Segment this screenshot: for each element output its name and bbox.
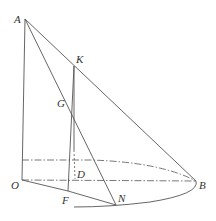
- label-D: D: [76, 168, 85, 180]
- segment-KD-hidden: [74, 150, 75, 179]
- label-G: G: [57, 97, 65, 109]
- segment-AN: [25, 19, 116, 205]
- segment-AO: [22, 19, 25, 180]
- label-F: F: [61, 194, 69, 206]
- segment-FN: [68, 191, 116, 205]
- label-K: K: [75, 53, 84, 65]
- geometry-figure: A K G O D F N B: [0, 0, 216, 221]
- ellipse-front-arc: [74, 181, 196, 207]
- label-N: N: [117, 192, 126, 204]
- label-A: A: [13, 13, 21, 25]
- label-O: O: [11, 179, 19, 191]
- label-B: B: [199, 179, 206, 191]
- segment-OF: [22, 180, 68, 191]
- segment-AB: [25, 19, 196, 181]
- segment-OB: [22, 180, 196, 181]
- segment-KF: [68, 66, 74, 191]
- ellipse-back-arc: [22, 160, 196, 181]
